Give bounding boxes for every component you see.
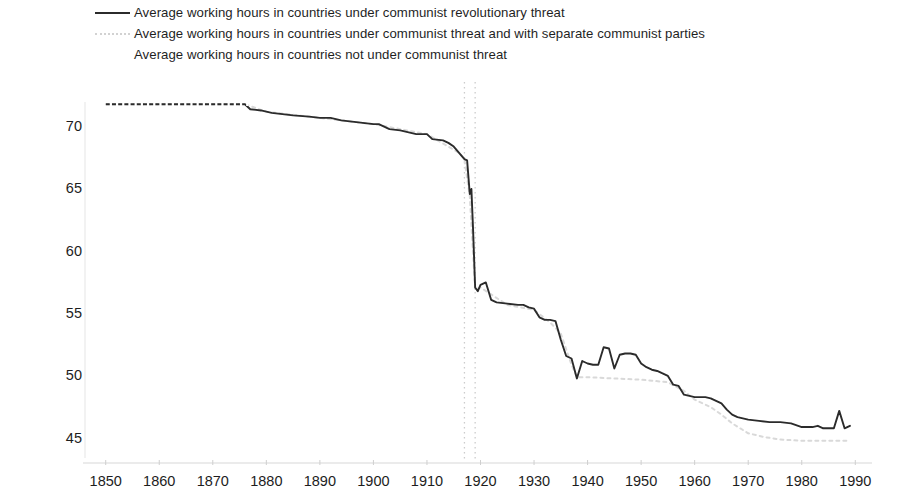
vertical-marker-lines	[464, 82, 475, 460]
x-tick-label-1940: 1940	[558, 473, 618, 489]
series-revolutionary-threat-line	[104, 104, 850, 428]
x-tick-label-1910: 1910	[397, 473, 457, 489]
x-tick-label-1890: 1890	[290, 473, 350, 489]
x-tick-label-1950: 1950	[611, 473, 671, 489]
y-tick-label-45: 45	[42, 430, 82, 446]
x-tick-label-1850: 1850	[76, 473, 136, 489]
y-tick-label-70: 70	[42, 118, 82, 134]
plot-area	[0, 0, 902, 498]
x-tick-label-1880: 1880	[236, 473, 296, 489]
y-tick-label-65: 65	[42, 180, 82, 196]
y-tick-label-50: 50	[42, 367, 82, 383]
y-tick-label-55: 55	[42, 305, 82, 321]
x-tick-label-1960: 1960	[665, 473, 725, 489]
x-tick-label-1860: 1860	[129, 473, 189, 489]
series-separate-communist-parties-line	[106, 104, 850, 441]
x-tick-label-1980: 1980	[772, 473, 832, 489]
x-tick-label-1930: 1930	[504, 473, 564, 489]
x-tick-label-1990: 1990	[825, 473, 885, 489]
working-hours-line-chart: Average working hours in countries under…	[0, 0, 902, 498]
x-tick-label-1970: 1970	[718, 473, 778, 489]
x-tick-label-1870: 1870	[183, 473, 243, 489]
x-tick-label-1900: 1900	[343, 473, 403, 489]
y-tick-label-60: 60	[42, 243, 82, 259]
x-tick-label-1920: 1920	[451, 473, 511, 489]
